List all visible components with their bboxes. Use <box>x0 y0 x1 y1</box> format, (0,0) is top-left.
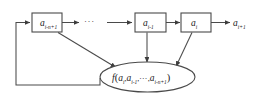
block-diagram-canvas: ai-n+1 ai-1 ai ai+1 ··· f(ai,ai-1,···,ai… <box>0 0 257 99</box>
arg-3-sub: i-n+1 <box>154 79 167 85</box>
ellipsis-between-boxes: ··· <box>84 16 95 26</box>
diagram-svg: ai-n+1 ai-1 ai ai+1 ··· f(ai,ai-1,···,ai… <box>0 0 257 99</box>
output-a-i-plus-1-label: ai+1 <box>233 18 246 30</box>
close-paren: ) <box>167 72 171 84</box>
edge-box3-to-function <box>176 33 192 67</box>
edge-box1-to-function <box>58 33 116 68</box>
function-ellipsis: ··· <box>139 73 148 83</box>
